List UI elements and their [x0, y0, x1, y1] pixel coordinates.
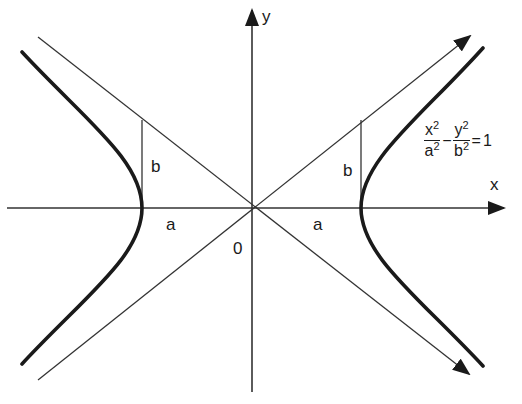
minus-sign: −: [442, 132, 451, 150]
hyperbola-diagram: [0, 0, 522, 404]
equation-rhs: 1: [483, 132, 492, 150]
fraction-y: y2 b2: [453, 122, 469, 159]
origin-label: 0: [233, 240, 242, 257]
right-a-label: a: [313, 216, 322, 233]
y-axis-label: y: [262, 8, 271, 25]
left-b-label: b: [151, 158, 160, 175]
right-b-label: b: [343, 162, 352, 179]
hyperbola-equation: x2 a2 − y2 b2 = 1: [424, 122, 492, 159]
left-a-label: a: [166, 216, 175, 233]
equals-sign: =: [472, 132, 481, 150]
hyperbola-right-branch: [361, 48, 483, 366]
fraction-x: x2 a2: [424, 122, 440, 159]
x-axis-label: x: [490, 176, 499, 193]
